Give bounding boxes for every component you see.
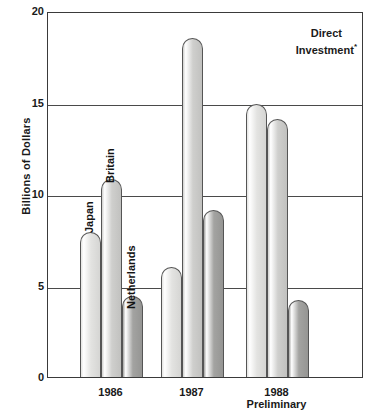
- bar-japan-1986[interactable]: [80, 232, 101, 377]
- series-label-britain: Britain: [104, 148, 116, 183]
- y-tick-label-10: 10: [4, 188, 44, 200]
- x-axis-label-1986: 1986: [98, 386, 122, 398]
- bar-japan-1987[interactable]: [161, 267, 182, 377]
- bar-britain-1987[interactable]: [182, 38, 203, 377]
- annotation-footnote-marker: *: [354, 42, 357, 51]
- y-tick-label-5: 5: [4, 280, 44, 292]
- annotation-line-2: Investment*: [296, 44, 357, 56]
- series-label-netherlands: Netherlands: [125, 245, 137, 309]
- bar-britain-1986[interactable]: [101, 179, 122, 377]
- bar-britain-1988[interactable]: [267, 119, 288, 377]
- y-tick-label-20: 20: [4, 5, 44, 17]
- plot-area: JapanBritainNetherlands: [47, 12, 363, 378]
- annotation-line-1: Direct: [311, 27, 342, 39]
- bars-layer: JapanBritainNetherlands: [48, 13, 362, 377]
- bar-netherlands-1988[interactable]: [288, 300, 309, 377]
- y-tick-label-15: 15: [4, 97, 44, 109]
- series-label-japan: Japan: [83, 201, 95, 233]
- x-axis-sublabel-1988: Preliminary: [247, 398, 307, 410]
- y-axis-title: Billions of Dollars: [20, 86, 32, 246]
- x-axis-label-1988: 1988: [264, 386, 288, 398]
- y-tick-label-0: 0: [4, 371, 44, 383]
- bar-japan-1988[interactable]: [246, 104, 267, 377]
- direct-investment-bar-chart: Billions of Dollars JapanBritainNetherla…: [0, 0, 371, 413]
- chart-annotation: Direct Investment*: [296, 26, 357, 57]
- bar-netherlands-1987[interactable]: [203, 210, 224, 377]
- x-axis-label-1987: 1987: [179, 386, 203, 398]
